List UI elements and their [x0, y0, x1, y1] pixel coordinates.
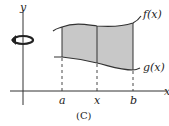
x-axis-label: x: [164, 85, 169, 98]
washer-shell-diagram: y x f(x) g(x) a x b (C): [0, 0, 169, 126]
tick-x-label: x: [94, 94, 101, 107]
g-label: g(x): [143, 61, 165, 74]
diagram-canvas: y x f(x) g(x) a x b (C): [0, 0, 169, 126]
tick-a-label: a: [59, 94, 66, 107]
figure-caption: (C): [76, 110, 92, 121]
tick-b-label: b: [130, 94, 137, 107]
f-label: f(x): [142, 8, 162, 21]
rotation-arrow-icon: [11, 35, 33, 45]
y-axis-label: y: [19, 1, 27, 14]
